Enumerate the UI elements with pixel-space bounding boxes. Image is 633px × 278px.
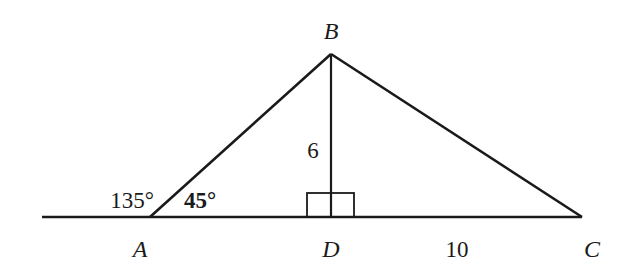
vertex-label-C: C: [584, 237, 600, 261]
triangle-diagram: B 6 135° 45° A D 10 C: [0, 0, 633, 278]
interior-angle-label-A: 45°: [184, 189, 216, 212]
vertex-label-A: A: [133, 237, 148, 261]
length-label-DC: 10: [446, 238, 469, 261]
segment-BC: [331, 54, 582, 217]
segment-AB: [150, 54, 331, 217]
vertex-label-B: B: [324, 19, 339, 43]
length-label-BD: 6: [307, 139, 319, 162]
vertex-label-D: D: [322, 237, 339, 261]
exterior-angle-label-A: 135°: [110, 189, 154, 212]
